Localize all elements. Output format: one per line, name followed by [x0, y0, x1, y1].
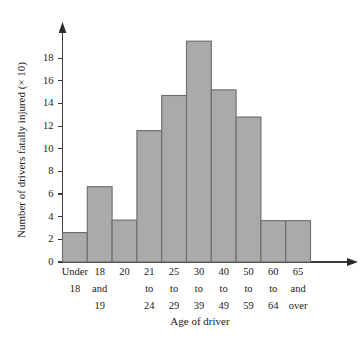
histogram-bar [236, 117, 261, 262]
y-axis-arrow-icon [59, 22, 67, 33]
x-tick-label: 18 [70, 283, 81, 294]
y-tick-label: 4 [48, 211, 54, 222]
histogram-bar [137, 131, 162, 262]
histogram-bar [211, 90, 236, 262]
y-axis-title-text: Number of drivers fatally injured (× 10) [15, 62, 28, 238]
x-tick-label: 64 [268, 300, 279, 311]
x-tick-label: 18 [94, 266, 105, 277]
x-tick-label: to [269, 283, 277, 294]
x-tick-label: to [244, 283, 252, 294]
x-tick-label: 39 [194, 300, 205, 311]
y-tick-group: 024681012141618 [43, 52, 63, 267]
y-tick-label: 10 [43, 143, 54, 154]
x-tick-label: 20 [119, 266, 130, 277]
x-axis-title-text: Age of driver [170, 315, 230, 327]
x-tick-label-group: Under1818and192021to2425to2930to3940to49… [62, 266, 308, 311]
x-tick-label: and [291, 283, 307, 294]
chart-canvas: Number of drivers fatally injured (× 10)… [0, 0, 364, 343]
y-tick-label: 2 [48, 233, 53, 244]
x-tick-label: 65 [293, 266, 304, 277]
x-tick-label: over [289, 300, 308, 311]
histogram-bar [112, 220, 137, 262]
histogram-bar [63, 233, 88, 262]
y-tick-label: 14 [43, 97, 54, 108]
histogram-bar [261, 221, 286, 262]
histogram-bar [286, 221, 311, 262]
x-tick-label: 30 [194, 266, 205, 277]
x-tick-label: 21 [144, 266, 155, 277]
y-tick-label: 16 [43, 75, 54, 86]
x-axis-arrow-icon [347, 258, 358, 266]
y-tick-label: 0 [48, 256, 53, 267]
x-tick-label: 49 [218, 300, 229, 311]
x-tick-label: 19 [94, 300, 105, 311]
x-tick-label: and [92, 283, 108, 294]
x-tick-label: Under [62, 266, 89, 277]
histogram-bar [87, 187, 112, 262]
x-tick-label: to [145, 283, 153, 294]
x-tick-label: 24 [144, 300, 155, 311]
y-tick-label: 8 [48, 165, 53, 176]
x-tick-label: 59 [243, 300, 254, 311]
histogram-bar [187, 41, 212, 262]
y-tick-label: 18 [43, 52, 54, 63]
x-tick-label: 29 [169, 300, 180, 311]
x-tick-label: to [195, 283, 203, 294]
bars-group [63, 41, 311, 262]
histogram-bar [162, 96, 187, 262]
x-tick-label: to [170, 283, 178, 294]
x-tick-label: 40 [218, 266, 229, 277]
histogram-figure: Number of drivers fatally injured (× 10)… [0, 0, 364, 343]
y-axis-title: Number of drivers fatally injured (× 10) [15, 62, 28, 238]
x-tick-label: 50 [243, 266, 254, 277]
x-tick-label: to [220, 283, 228, 294]
y-tick-label: 6 [48, 188, 53, 199]
x-tick-label: 25 [169, 266, 180, 277]
y-tick-label: 12 [43, 120, 54, 131]
x-tick-label: 60 [268, 266, 279, 277]
